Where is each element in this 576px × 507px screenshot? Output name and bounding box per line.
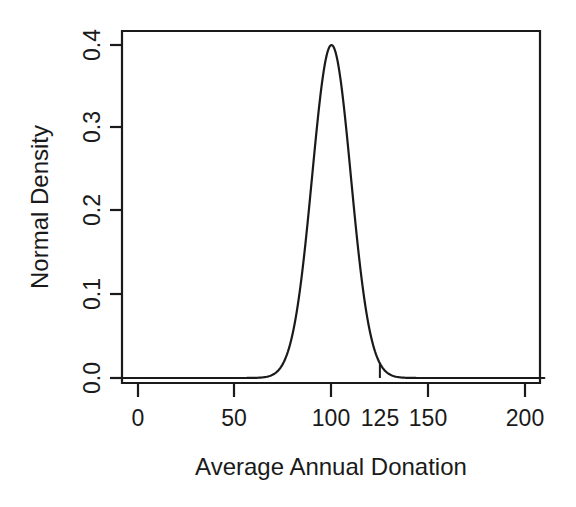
plot-box-border [122, 31, 540, 383]
y-tick-label-0: 0.0 [79, 362, 105, 394]
y-tick-label-3: 0.3 [79, 111, 105, 143]
y-tick-label-1: 0.1 [79, 278, 105, 310]
x-tick-label-150: 150 [409, 405, 447, 431]
x-tick-label-125: 125 [361, 405, 399, 431]
y-axis-title: Normal Density [26, 125, 53, 289]
y-tick-label-4: 0.4 [79, 29, 105, 61]
x-tick-label-0: 0 [132, 405, 145, 431]
x-axis-ticks [138, 383, 525, 397]
normal-density-chart: 0.0 0.1 0.2 0.3 0.4 Normal Density 0 50 … [0, 0, 576, 507]
y-axis-ticks [110, 45, 122, 378]
density-curve [119, 45, 545, 378]
x-tick-label-50: 50 [221, 405, 247, 431]
y-tick-label-2: 0.2 [79, 194, 105, 226]
x-axis-title: Average Annual Donation [195, 453, 467, 480]
y-axis-tick-labels: 0.0 0.1 0.2 0.3 0.4 [79, 29, 105, 394]
plot-frame [122, 31, 540, 383]
chart-figure: 0.0 0.1 0.2 0.3 0.4 Normal Density 0 50 … [0, 0, 576, 507]
x-axis-tick-labels: 0 50 100 125 150 200 [132, 405, 545, 431]
x-tick-label-100: 100 [312, 405, 350, 431]
x-tick-label-200: 200 [506, 405, 544, 431]
